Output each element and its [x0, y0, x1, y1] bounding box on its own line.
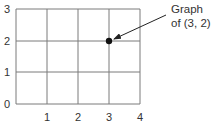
annotation-line-2: of (3, 2)	[171, 17, 211, 29]
grid-lines	[16, 9, 140, 104]
x-tick-2: 2	[75, 111, 81, 123]
y-tick-2: 2	[4, 35, 10, 47]
annotation-label: Graph of (3, 2)	[171, 3, 211, 29]
coordinate-grid-chart: 3 2 1 0 1 2 3 4 Graph of (3, 2)	[0, 0, 216, 125]
y-tick-1: 1	[4, 66, 10, 78]
y-tick-0: 0	[4, 98, 10, 110]
data-point-3-2	[106, 38, 112, 44]
x-axis-tick-labels: 1 2 3 4	[44, 111, 143, 123]
y-axis-tick-labels: 3 2 1 0	[4, 3, 10, 110]
x-tick-3: 3	[106, 111, 112, 123]
x-tick-1: 1	[44, 111, 50, 123]
annotation-line-1: Graph	[171, 3, 203, 15]
y-tick-3: 3	[4, 3, 10, 15]
x-tick-4: 4	[137, 111, 143, 123]
